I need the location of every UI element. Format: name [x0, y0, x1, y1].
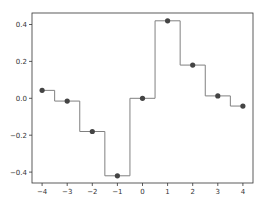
- y-tick-label: −0.2: [10, 132, 27, 140]
- y-tick-label: −0.4: [10, 169, 28, 177]
- data-markers: [40, 18, 246, 178]
- x-tick-label: 3: [216, 188, 220, 196]
- data-point: [240, 103, 245, 108]
- data-point: [215, 93, 220, 98]
- y-tick-label: 0.2: [16, 58, 27, 66]
- x-tick-label: −4: [37, 188, 48, 196]
- y-axis: 0.40.20.0−0.2−0.4: [10, 21, 32, 177]
- data-point: [140, 96, 145, 101]
- y-tick-label: 0.0: [16, 95, 27, 103]
- step-chart: −4−3−2−101234 0.40.20.0−0.2−0.4: [0, 0, 261, 203]
- x-tick-label: −2: [87, 188, 97, 196]
- data-point: [115, 173, 120, 178]
- x-tick-label: −3: [62, 188, 72, 196]
- data-point: [40, 88, 45, 93]
- data-point: [65, 98, 70, 103]
- x-tick-label: −1: [112, 188, 122, 196]
- x-tick-label: 0: [140, 188, 144, 196]
- x-tick-label: 4: [241, 188, 246, 196]
- x-tick-label: 2: [190, 188, 194, 196]
- x-axis: −4−3−2−101234: [37, 183, 246, 196]
- data-point: [165, 18, 170, 23]
- data-point: [190, 62, 195, 67]
- data-point: [90, 129, 95, 134]
- x-tick-label: 1: [165, 188, 169, 196]
- y-tick-label: 0.4: [16, 21, 28, 29]
